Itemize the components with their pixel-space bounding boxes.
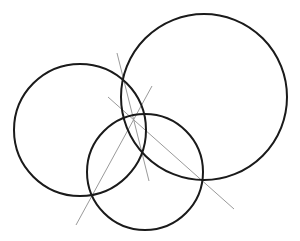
circles-layer bbox=[14, 14, 287, 230]
lines-layer bbox=[76, 53, 234, 225]
left-circle bbox=[14, 64, 146, 196]
diagram-canvas bbox=[0, 0, 300, 241]
bisector-line-c bbox=[108, 97, 234, 209]
three-circles-diagram bbox=[0, 0, 300, 241]
